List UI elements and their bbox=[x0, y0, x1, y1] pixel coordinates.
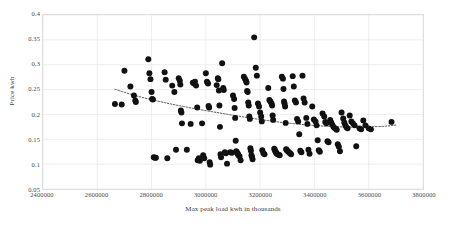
scatter-chart: 0.050.10.150.20.250.30.350.4 Price kwh 2… bbox=[0, 0, 450, 227]
data-point bbox=[162, 69, 168, 75]
data-point bbox=[238, 157, 244, 163]
data-point bbox=[199, 120, 205, 126]
y-axis-tick-label: 0.35 bbox=[2, 36, 40, 43]
data-point bbox=[148, 76, 154, 82]
x-axis-tick-label: 3400000 bbox=[303, 192, 326, 199]
x-axis-tick-label: 2400000 bbox=[30, 192, 53, 199]
data-point bbox=[146, 70, 152, 76]
data-point bbox=[321, 113, 327, 119]
data-points bbox=[43, 15, 423, 189]
data-point bbox=[315, 137, 321, 143]
data-point bbox=[250, 156, 256, 162]
x-axis-tick-label: 2800000 bbox=[139, 192, 162, 199]
y-axis-title: Price kwh bbox=[8, 61, 16, 121]
data-point bbox=[265, 85, 271, 91]
data-point bbox=[131, 93, 137, 99]
data-point bbox=[177, 82, 183, 88]
data-point bbox=[253, 65, 259, 71]
data-point bbox=[169, 83, 175, 89]
data-point bbox=[291, 84, 297, 90]
x-axis-tick-label: 3200000 bbox=[249, 192, 272, 199]
data-point bbox=[303, 115, 309, 121]
data-point bbox=[353, 143, 359, 149]
data-point bbox=[245, 89, 251, 95]
data-point bbox=[194, 105, 200, 111]
data-point bbox=[270, 117, 276, 123]
data-point bbox=[145, 56, 151, 62]
data-point bbox=[256, 104, 262, 110]
data-point bbox=[184, 147, 190, 153]
data-point bbox=[232, 115, 238, 121]
data-point bbox=[389, 119, 395, 125]
y-axis-tick-label: 0.4 bbox=[2, 11, 40, 18]
data-point bbox=[244, 80, 250, 86]
data-point bbox=[203, 70, 209, 76]
data-point bbox=[293, 100, 299, 106]
data-point bbox=[302, 100, 308, 106]
data-point bbox=[173, 147, 179, 153]
data-point bbox=[309, 104, 315, 110]
data-point bbox=[246, 103, 252, 109]
data-point bbox=[178, 109, 184, 115]
data-point bbox=[216, 103, 222, 109]
data-point bbox=[164, 155, 170, 161]
data-point bbox=[290, 73, 296, 79]
data-point bbox=[188, 121, 194, 127]
plot-area bbox=[42, 14, 424, 190]
data-point bbox=[262, 151, 268, 157]
data-point bbox=[259, 118, 265, 124]
data-point bbox=[337, 148, 343, 154]
data-point bbox=[217, 124, 223, 130]
data-point bbox=[326, 139, 332, 145]
data-point bbox=[277, 152, 283, 158]
data-point bbox=[179, 120, 185, 126]
data-point bbox=[298, 149, 304, 155]
data-point bbox=[282, 104, 288, 110]
data-point bbox=[281, 86, 287, 92]
x-axis-tick-label: 2600000 bbox=[85, 192, 108, 199]
data-point bbox=[300, 73, 306, 79]
data-point bbox=[224, 161, 230, 167]
data-point bbox=[283, 120, 289, 126]
data-point bbox=[232, 105, 238, 111]
data-point bbox=[231, 96, 237, 102]
x-axis-tick-label: 3800000 bbox=[412, 192, 435, 199]
data-point bbox=[304, 121, 310, 127]
y-axis-tick-labels: 0.050.10.150.20.250.30.350.4 bbox=[0, 14, 40, 190]
data-point bbox=[150, 97, 156, 103]
data-point bbox=[133, 99, 139, 105]
data-point bbox=[127, 84, 133, 90]
data-point bbox=[149, 89, 155, 95]
data-point bbox=[288, 151, 294, 157]
data-point bbox=[215, 76, 221, 82]
data-point bbox=[296, 131, 302, 137]
data-point bbox=[307, 151, 313, 157]
data-point bbox=[221, 87, 227, 93]
data-point bbox=[334, 127, 340, 133]
data-point bbox=[193, 83, 199, 89]
data-point bbox=[269, 103, 275, 109]
x-axis-tick-label: 3000000 bbox=[194, 192, 217, 199]
data-point bbox=[368, 126, 374, 132]
data-point bbox=[347, 112, 353, 118]
data-point bbox=[254, 73, 260, 79]
data-point bbox=[119, 102, 125, 108]
data-point bbox=[314, 122, 320, 128]
data-point bbox=[205, 81, 211, 87]
data-point bbox=[214, 82, 220, 88]
data-point bbox=[295, 118, 301, 124]
data-point bbox=[112, 101, 118, 107]
data-point bbox=[207, 162, 213, 168]
data-point bbox=[339, 109, 345, 115]
data-point bbox=[163, 77, 169, 83]
x-axis-tick-label: 3600000 bbox=[358, 192, 381, 199]
x-axis-tick-labels: 2400000260000028000003000000320000034000… bbox=[42, 192, 424, 204]
x-axis-title: Max peak load kwh in thousands bbox=[42, 205, 424, 213]
data-point bbox=[171, 89, 177, 95]
y-axis-tick-label: 0.15 bbox=[2, 136, 40, 143]
data-point bbox=[280, 76, 286, 82]
data-point bbox=[233, 138, 239, 144]
y-axis-tick-label: 0.1 bbox=[2, 162, 40, 169]
data-point bbox=[247, 116, 253, 122]
data-point bbox=[218, 154, 224, 160]
